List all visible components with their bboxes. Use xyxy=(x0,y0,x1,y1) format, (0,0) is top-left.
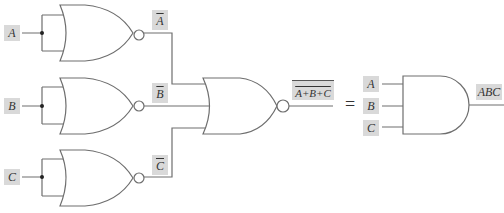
input-label-b: B xyxy=(4,98,20,114)
circuit-diagram xyxy=(0,0,504,213)
and-output-label: ABC xyxy=(476,84,502,100)
and-input-label-a: A xyxy=(363,76,379,92)
nor-gate-a xyxy=(22,5,208,84)
nor-output-label: A+B+C xyxy=(292,80,334,100)
nor-gate-b xyxy=(22,78,212,134)
and-input-label-b: B xyxy=(363,98,379,114)
nor-gate-c xyxy=(22,128,208,206)
inverted-label-c: C xyxy=(152,155,168,175)
and-input-label-c: C xyxy=(363,120,379,136)
equals-sign: = xyxy=(345,94,355,115)
inverted-label-a: A xyxy=(152,10,168,30)
nor-output-expr: A+B+C xyxy=(295,87,331,99)
input-label-a: A xyxy=(4,25,20,41)
input-label-c: C xyxy=(4,169,20,185)
inverted-label-b: B xyxy=(152,83,168,103)
